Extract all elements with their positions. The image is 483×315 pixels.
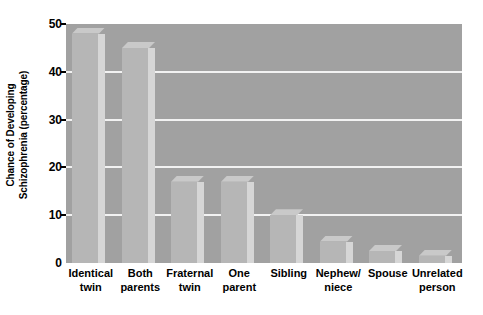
tick-mark — [61, 119, 66, 121]
y-axis-title-line-2: Schizophrenia (percentage) — [17, 71, 30, 200]
y-axis-tick-marks — [66, 24, 462, 263]
y-tick-label: 10 — [32, 209, 62, 221]
x-tick-label-line: Unrelated — [407, 266, 469, 280]
y-tick-label: 50 — [32, 18, 62, 30]
y-tick-label: 20 — [32, 161, 62, 173]
y-axis-title: Chance of Developing Schizophrenia (perc… — [0, 0, 34, 270]
tick-mark — [61, 71, 66, 73]
x-tick-label-line: parent — [209, 280, 271, 294]
y-tick-label: 0 — [32, 257, 62, 269]
x-axis-tick-labels: IdenticaltwinBothparentsFraternaltwinOne… — [66, 266, 462, 312]
y-axis-tick-labels: 01020304050 — [30, 0, 62, 315]
y-axis-title-line-1: Chance of Developing — [4, 71, 17, 200]
y-tick-label: 30 — [32, 114, 62, 126]
tick-mark — [61, 214, 66, 216]
tick-mark — [61, 166, 66, 168]
x-tick-label: Unrelatedperson — [407, 266, 469, 294]
tick-mark — [61, 23, 66, 25]
bar-chart-figure: Chance of Developing Schizophrenia (perc… — [0, 0, 483, 315]
x-tick-label-line: person — [407, 280, 469, 294]
x-tick-label-line: niece — [308, 280, 370, 294]
y-tick-label: 40 — [32, 66, 62, 78]
